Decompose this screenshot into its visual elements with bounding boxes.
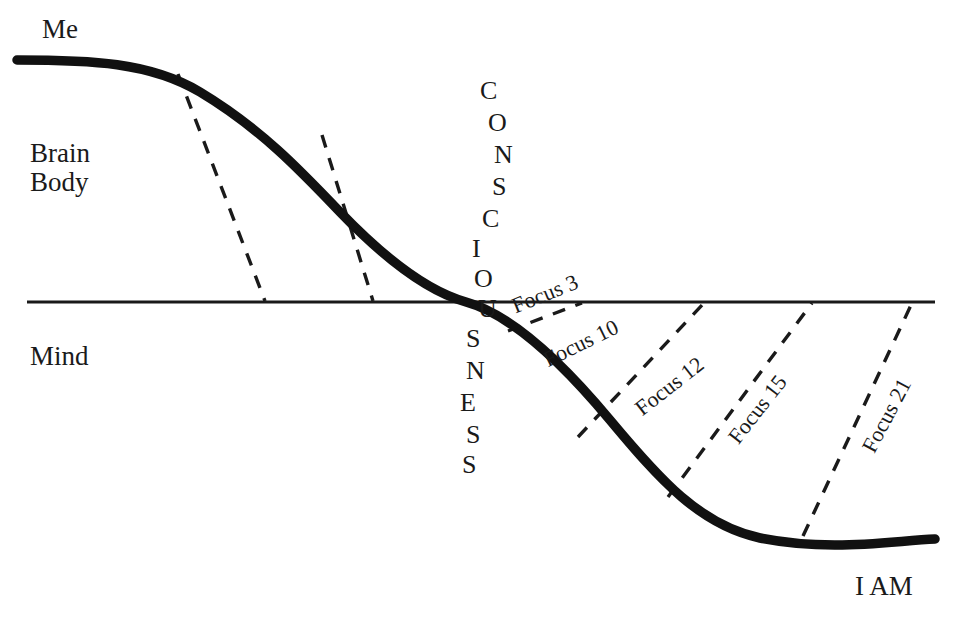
label-i-am: I AM bbox=[855, 573, 913, 600]
consciousness-letter: S bbox=[462, 452, 476, 478]
label-brain: Brain bbox=[30, 140, 90, 167]
consciousness-letter: C bbox=[480, 78, 497, 104]
label-me: Me bbox=[42, 16, 78, 43]
consciousness-letter: S bbox=[492, 174, 506, 200]
consciousness-letter: O bbox=[474, 266, 493, 292]
consciousness-letter: S bbox=[466, 326, 480, 352]
consciousness-letter: I bbox=[472, 236, 481, 262]
consciousness-letter: C bbox=[482, 206, 499, 232]
consciousness-letter: S bbox=[466, 422, 480, 448]
consciousness-letter: U bbox=[478, 296, 497, 322]
label-mind: Mind bbox=[30, 343, 89, 370]
consciousness-focus-diagram: Me Brain Body Mind I AM CONSCIOUSNESS Fo… bbox=[0, 0, 970, 625]
consciousness-letter: O bbox=[488, 110, 507, 136]
label-body: Body bbox=[30, 169, 89, 196]
consciousness-letter: E bbox=[460, 390, 476, 416]
consciousness-letter: N bbox=[466, 358, 485, 384]
consciousness-letter: N bbox=[494, 142, 513, 168]
divider-focus-12 bbox=[668, 303, 812, 497]
